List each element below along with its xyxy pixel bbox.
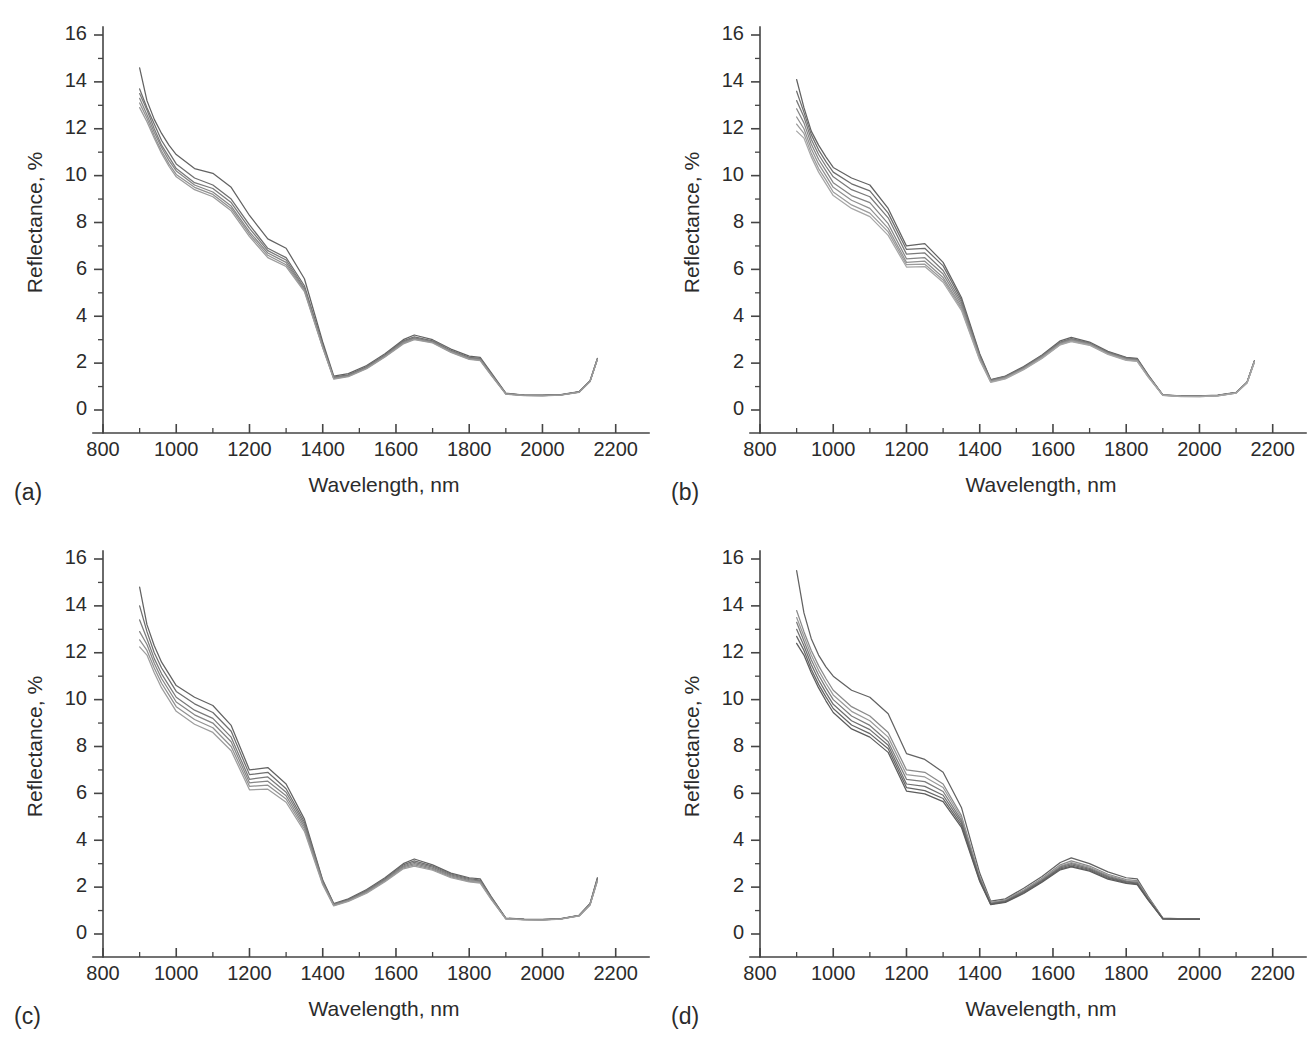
spectrum-line [797,629,1200,919]
x-tick-label: 1800 [447,438,492,460]
y-tick-label: 8 [733,734,744,756]
y-tick-label: 10 [65,687,87,709]
spectrum-line [140,587,598,919]
x-tick-label: 1400 [957,438,1002,460]
y-tick-label: 4 [733,828,744,850]
spectrum-line [140,647,598,920]
spectrum-line [140,640,598,920]
y-tick-label: 6 [733,257,744,279]
x-tick-label: 2000 [1177,962,1222,984]
panel-label: (a) [14,479,42,505]
y-tick-label: 16 [65,22,87,44]
x-tick-label: 1800 [1104,438,1149,460]
spectrum-line [797,611,1200,919]
x-tick-label: 1000 [811,962,856,984]
x-tick-label: 1600 [1031,962,1076,984]
spectrum-line [797,101,1255,397]
x-tick-label: 2200 [1250,438,1295,460]
y-tick-label: 6 [733,781,744,803]
x-tick-label: 1600 [374,438,419,460]
y-tick-label: 6 [76,781,87,803]
spectrum-line [140,94,598,396]
spectrum-line [797,643,1200,919]
y-tick-label: 0 [76,397,87,419]
y-tick-label: 12 [722,116,744,138]
panel-b-plot: 0246810121416800100012001400160018002000… [657,0,1313,524]
x-axis-title: Wavelength, nm [966,997,1117,1020]
x-tick-label: 1000 [811,438,856,460]
panel-c-plot: 0246810121416800100012001400160018002000… [0,524,656,1048]
spectrum-line [140,98,598,395]
x-tick-label: 1800 [1104,962,1149,984]
y-tick-label: 10 [65,163,87,185]
y-tick-label: 0 [733,397,744,419]
x-tick-label: 800 [86,438,119,460]
x-tick-label: 800 [86,962,119,984]
x-tick-label: 1600 [1031,438,1076,460]
y-tick-label: 16 [65,546,87,568]
y-tick-label: 8 [76,210,87,232]
x-tick-label: 1400 [957,962,1002,984]
figure-four-panel-nir-spectra: 0246810121416800100012001400160018002000… [0,0,1313,1048]
x-tick-label: 2000 [520,438,565,460]
y-tick-label: 2 [76,874,87,896]
y-tick-label: 0 [76,921,87,943]
y-tick-label: 16 [722,546,744,568]
y-tick-label: 10 [722,163,744,185]
y-axis-title: Reflectance, % [23,676,46,817]
spectrum-line [797,117,1255,396]
spectrum-line [140,89,598,396]
y-tick-label: 4 [76,828,87,850]
x-tick-label: 2200 [593,438,638,460]
y-tick-label: 2 [733,350,744,372]
spectrum-line [797,91,1255,396]
x-axis-title: Wavelength, nm [309,997,460,1020]
x-tick-label: 1200 [227,962,272,984]
y-axis-title: Reflectance, % [23,152,46,293]
y-tick-label: 12 [722,640,744,662]
x-tick-label: 1000 [154,438,199,460]
spectrum-line [797,636,1200,919]
spectrum-line [797,131,1255,397]
y-tick-label: 2 [76,350,87,372]
panel-d: 0246810121416800100012001400160018002000… [657,524,1313,1048]
y-axis-title: Reflectance, % [680,676,703,817]
x-tick-label: 2200 [1250,962,1295,984]
x-tick-label: 1200 [884,962,929,984]
spectrum-line [797,618,1200,919]
x-axis-title: Wavelength, nm [966,473,1117,496]
y-tick-label: 6 [76,257,87,279]
spectrum-line [140,620,598,920]
panel-label: (b) [671,479,699,505]
y-tick-label: 12 [65,640,87,662]
y-axis-title: Reflectance, % [680,152,703,293]
panel-label: (c) [14,1003,41,1029]
x-tick-label: 1800 [447,962,492,984]
panel-b: 0246810121416800100012001400160018002000… [657,0,1313,524]
x-tick-label: 1600 [374,962,419,984]
x-tick-label: 1200 [884,438,929,460]
y-tick-label: 2 [733,874,744,896]
y-tick-label: 14 [65,69,87,91]
x-tick-label: 2000 [520,962,565,984]
y-tick-label: 14 [722,593,744,615]
x-tick-label: 1200 [227,438,272,460]
spectrum-line [140,68,598,395]
y-tick-label: 14 [722,69,744,91]
spectrum-line [797,80,1255,396]
x-tick-label: 2000 [1177,438,1222,460]
spectrum-line [797,622,1200,919]
spectrum-line [797,109,1255,397]
panel-c: 0246810121416800100012001400160018002000… [0,524,656,1048]
y-tick-label: 8 [733,210,744,232]
panel-d-plot: 0246810121416800100012001400160018002000… [657,524,1313,1048]
spectrum-line [140,108,598,396]
panel-label: (d) [671,1003,699,1029]
y-tick-label: 8 [76,734,87,756]
panel-a-plot: 0246810121416800100012001400160018002000… [0,0,656,524]
spectrum-line [797,124,1255,397]
x-tick-label: 2200 [593,962,638,984]
y-tick-label: 0 [733,921,744,943]
spectrum-line [140,103,598,396]
spectrum-line [797,571,1200,919]
